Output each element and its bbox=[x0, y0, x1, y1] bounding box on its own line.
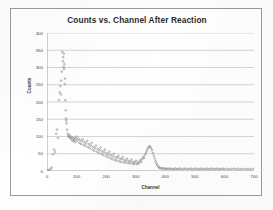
data-point-markers bbox=[47, 51, 253, 171]
x-tick-label: 300 bbox=[126, 174, 146, 179]
chart-frame: Counts vs. Channel After Reaction Counts… bbox=[10, 8, 262, 196]
y-tick-label: 250 bbox=[21, 82, 43, 87]
y-tick-label: 150 bbox=[21, 117, 43, 122]
horizontal-gridlines bbox=[47, 33, 254, 154]
scanned-page: Counts vs. Channel After Reaction Counts… bbox=[0, 0, 273, 210]
y-tick-label: 200 bbox=[21, 100, 43, 105]
x-tick-label: 200 bbox=[96, 174, 116, 179]
x-tick-label: 700 bbox=[244, 174, 264, 179]
x-axis-title: Channel bbox=[47, 185, 254, 190]
y-tick-label: 300 bbox=[21, 65, 43, 70]
chart-title: Counts vs. Channel After Reaction bbox=[11, 15, 263, 25]
y-tick-label: 350 bbox=[21, 48, 43, 53]
y-tick-label: 50 bbox=[21, 151, 43, 156]
x-tick-label: 100 bbox=[67, 174, 87, 179]
y-tick-label: 400 bbox=[21, 31, 43, 36]
y-tick-label: 0 bbox=[21, 169, 43, 174]
x-tick-label: 400 bbox=[155, 174, 175, 179]
y-tick-label: 100 bbox=[21, 134, 43, 139]
scatter-plot-svg bbox=[47, 33, 254, 171]
plot-area bbox=[47, 33, 254, 171]
x-tick-label: 500 bbox=[185, 174, 205, 179]
x-tick-label: 0 bbox=[37, 174, 57, 179]
x-tick-label: 600 bbox=[214, 174, 234, 179]
